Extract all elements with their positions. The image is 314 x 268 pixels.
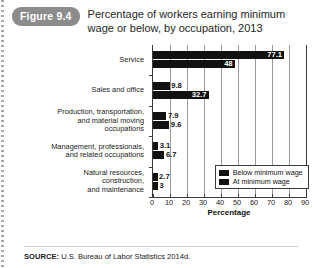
- y-axis-tick: [149, 136, 153, 137]
- bar-below-minimum-wage: 3.1: [153, 142, 158, 150]
- legend-item-below: Below minimum wage: [219, 168, 303, 177]
- x-axis-tick-label: 0: [150, 198, 154, 207]
- bar-value-label: 77.1: [267, 51, 282, 59]
- bar-value-label: 2.7: [159, 173, 170, 181]
- x-axis-tick-label: 10: [165, 198, 173, 207]
- bar-value-label: 7.9: [168, 112, 179, 120]
- x-axis-tick-label: 30: [199, 198, 207, 207]
- x-axis-tick-label: 50: [233, 198, 241, 207]
- x-axis-tick-label: 70: [267, 198, 275, 207]
- figure-number-badge: Figure 9.4: [12, 7, 80, 26]
- source-label: SOURCE:: [24, 252, 59, 261]
- bar-below-minimum-wage: 77.1: [153, 51, 284, 59]
- source-text: U.S. Bureau of Labor Statistics 2014d.: [61, 252, 190, 261]
- legend-label: At minimum wage: [233, 177, 290, 186]
- figure-title: Percentage of workers earning minimum wa…: [88, 6, 300, 35]
- bar-at-minimum-wage: 48: [153, 60, 235, 68]
- x-axis-tick-label: 40: [216, 198, 224, 207]
- category-label: Sales and office: [4, 86, 144, 95]
- legend-swatch-icon: [219, 170, 229, 176]
- chart-legend: Below minimum wage At minimum wage: [215, 165, 309, 189]
- bar-below-minimum-wage: 2.7: [153, 173, 158, 181]
- source-note: SOURCE: U.S. Bureau of Labor Statistics …: [24, 252, 190, 261]
- page-spine-artifact: [1, 0, 4, 268]
- bar-at-minimum-wage: 32.7: [153, 91, 209, 99]
- figure-header: Figure 9.4 Percentage of workers earning…: [12, 6, 306, 35]
- legend-item-at: At minimum wage: [219, 177, 303, 186]
- y-axis-tick: [149, 106, 153, 107]
- bar-value-label: 48: [224, 60, 232, 68]
- bar-value-label: 6.7: [166, 151, 177, 159]
- x-axis-title: Percentage: [152, 208, 306, 217]
- y-axis-tick: [149, 167, 153, 168]
- bar-value-label: 9.6: [171, 121, 182, 129]
- legend-swatch-icon: [219, 179, 229, 185]
- x-axis-tick-label: 20: [182, 198, 190, 207]
- category-label: Natural resources,construction,and maint…: [4, 169, 144, 195]
- bar-value-label: 3.1: [160, 142, 171, 150]
- category-label: Service: [4, 56, 144, 65]
- footer-divider: [24, 246, 298, 247]
- category-label: Production, transportation,and material …: [4, 108, 144, 134]
- bar-below-minimum-wage: 7.9: [153, 112, 166, 120]
- bar-at-minimum-wage: 9.6: [153, 121, 169, 129]
- bar-at-minimum-wage: 6.7: [153, 151, 164, 159]
- bar-value-label: 9.8: [171, 82, 182, 90]
- category-label: Management, professionals,and related oc…: [4, 143, 144, 160]
- x-axis-tick-label: 60: [250, 198, 258, 207]
- legend-label: Below minimum wage: [233, 168, 303, 177]
- x-axis-tick-label: 90: [301, 198, 309, 207]
- bar-below-minimum-wage: 9.8: [153, 82, 170, 90]
- bar-value-label: 3: [160, 182, 164, 190]
- y-axis-tick: [149, 75, 153, 76]
- category-axis-labels: ServiceSales and officeProduction, trans…: [12, 45, 149, 197]
- x-axis-tick-label: 80: [284, 198, 292, 207]
- bar-value-label: 32.7: [192, 91, 207, 99]
- chart-plot-area: ServiceSales and officeProduction, trans…: [12, 45, 306, 215]
- bar-at-minimum-wage: 3: [153, 182, 158, 190]
- figure-container: Figure 9.4 Percentage of workers earning…: [12, 6, 306, 262]
